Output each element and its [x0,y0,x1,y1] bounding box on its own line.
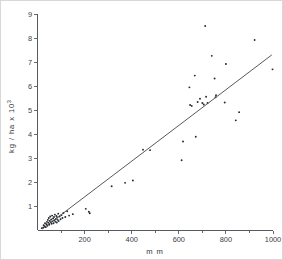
regression-line-group [42,55,272,229]
y-tick-label: 3 [28,154,32,163]
data-point [132,180,134,182]
data-point [201,102,203,104]
data-point [272,68,274,70]
data-point [214,78,216,80]
data-point [72,213,74,215]
y-tick-label: 8 [28,34,32,43]
data-point [204,25,206,27]
x-axis-title: m m [146,247,163,256]
y-tick-label: 6 [28,82,32,91]
x-tick-label: 200 [78,235,90,244]
data-point [58,220,60,222]
data-point [194,75,196,77]
data-point [191,105,193,107]
data-point [53,222,55,224]
data-point [205,96,207,98]
data-point [203,104,205,106]
data-point [124,182,126,184]
data-point [197,101,199,103]
data-point [62,217,64,219]
data-point [254,39,256,41]
y-tick-label: 7 [28,58,32,67]
axes-group [38,14,274,231]
data-point [235,119,237,121]
scatter-plot-figure: 123456789 2004006008001000 m m kg / ha x… [0,0,283,260]
data-point [111,185,113,187]
data-point [215,94,217,96]
data-point [199,98,201,100]
data-point [51,215,53,217]
data-point [54,214,56,216]
regression-line [42,55,272,229]
x-axis-ticks: 2004006008001000 [61,231,281,245]
data-point [181,159,183,161]
data-point [189,104,191,106]
y-tick-label: 9 [28,10,32,19]
data-point [211,55,213,57]
y-tick-label: 5 [28,106,32,115]
data-point [64,216,66,218]
y-axis-ticks: 123456789 [28,10,38,211]
data-point [53,216,55,218]
data-point [56,222,58,224]
data-point [51,223,53,225]
data-point [47,219,49,221]
y-tick-label: 1 [28,202,32,211]
x-tick-label: 600 [173,235,185,244]
data-point [238,111,240,113]
x-tick-label: 1000 [265,235,281,244]
y-axis-title-group: kg / ha x 103 [6,99,16,153]
data-point [60,218,62,220]
y-axis-title: kg / ha x 103 [6,99,16,153]
data-point [50,218,52,220]
data-point [182,141,184,143]
data-points-group [41,25,274,229]
data-point [149,149,151,151]
y-tick-label: 2 [28,178,32,187]
data-point [68,215,70,217]
data-point [57,213,59,215]
chart-canvas: 123456789 2004006008001000 m m kg / ha x… [1,1,283,260]
x-tick-label: 400 [126,235,138,244]
data-point [188,86,190,88]
data-point [142,149,144,151]
y-tick-label: 4 [28,130,32,139]
data-point [85,208,87,210]
data-point [49,216,51,218]
data-point [48,217,50,219]
data-point [89,212,91,214]
data-point [225,63,227,65]
data-point [195,136,197,138]
x-tick-label: 800 [220,235,232,244]
data-point [224,102,226,104]
